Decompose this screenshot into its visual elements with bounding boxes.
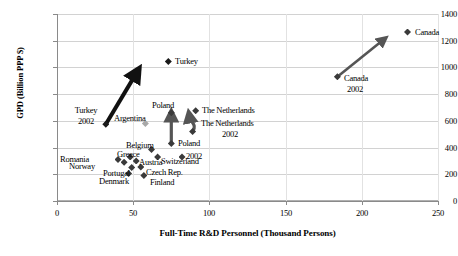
label-turkey-2002-line2: 2002 [62,117,110,127]
y-tick-800 [53,94,57,95]
y-tick-400 [53,148,57,149]
y-tick-200 [53,174,57,175]
vgridline-150 [286,14,287,201]
label-czech: Czech Rep. [146,168,183,177]
gridline-1400 [58,14,439,15]
x-tick-250 [438,201,439,205]
label-greece: Greece [117,150,140,159]
x-tick-0 [57,201,58,205]
label-canada-2002-line2: 2002 [347,85,363,94]
vgridline-200 [362,14,363,201]
vgridline-50 [133,14,134,201]
gridline-400 [58,148,439,149]
label-canada: Canada [415,28,439,37]
label-turkey: Turkey [175,57,198,66]
label-argentina: Argentina [114,114,146,123]
x-tick-200 [362,201,363,205]
y-tick-label-0: 0 [407,197,457,206]
y-tick-600 [53,121,57,122]
y-tick-1200 [53,41,57,42]
gridline-800 [58,94,439,95]
x-tick-label-150: 150 [266,209,306,218]
x-axis-title: Full-Time R&D Personnel (Thousand Person… [57,228,438,238]
label-denmark: Denmark [99,177,129,186]
label-netherlands: The Netherlands [202,106,255,115]
label-poland-bottom: Poland [178,139,200,148]
label-belgium: Belgium [126,141,154,150]
y-tick-label-400: 400 [407,144,457,153]
x-tick-label-0: 0 [37,209,77,218]
y-tick-label-600: 600 [407,117,457,126]
x-axis-line [57,201,439,202]
y-tick-label-200: 200 [407,170,457,179]
y-tick-label-1400: 1400 [407,10,457,19]
label-canada-2002-line1: Canada [344,74,368,83]
y-tick-label-1000: 1000 [407,63,457,72]
label-netherlands-2002-line1: The Netherlands [201,119,254,128]
y-axis-line [57,14,58,202]
label-finland: Finland [150,178,174,187]
y-tick-label-1200: 1200 [407,37,457,46]
x-tick-label-200: 200 [342,209,382,218]
x-tick-100 [209,201,210,205]
label-switzerland-2002: 2002 [186,152,202,161]
y-tick-1400 [53,14,57,15]
label-poland-top: Poland [152,101,174,110]
x-tick-label-250: 250 [418,209,458,218]
x-tick-label-100: 100 [189,209,229,218]
gridline-1000 [58,67,439,68]
x-tick-150 [286,201,287,205]
label-norway: Norway [69,162,95,171]
x-tick-label-50: 50 [113,209,153,218]
label-netherlands-2002-line2: 2002 [222,130,238,139]
label-turkey-2002-line1: Turkey [62,106,110,116]
y-tick-label-800: 800 [407,90,457,99]
gridline-1200 [58,41,439,42]
y-tick-1000 [53,67,57,68]
y-axis-title: GPD (Billion PPP $) [15,13,25,153]
x-tick-50 [133,201,134,205]
label-austria: Austria [139,158,162,167]
